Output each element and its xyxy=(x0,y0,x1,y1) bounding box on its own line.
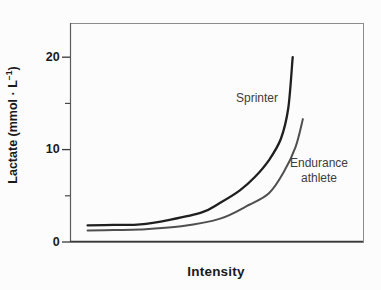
curve-sprinter xyxy=(88,57,293,225)
lactate-intensity-figure: 20 10 0 Lactate (mmol · L−1) Intensity S… xyxy=(0,0,381,290)
y-axis-label-superscript: −1 xyxy=(4,70,14,80)
y-axis-label-text: Lactate (mmol · L xyxy=(6,80,20,184)
annotation-sprinter: Sprinter xyxy=(207,91,307,105)
plot-frame xyxy=(71,24,364,243)
y-axis-label: Lactate (mmol · L−1) xyxy=(4,40,22,210)
x-axis-label: Intensity xyxy=(116,264,316,279)
y-tick-label-10: 10 xyxy=(24,141,60,157)
y-tick-label-20: 20 xyxy=(24,49,60,65)
y-tick-label-0: 0 xyxy=(24,234,60,250)
y-axis-label-close-paren: ) xyxy=(6,66,20,70)
annotation-endurance-athlete: Endurance athlete xyxy=(269,156,369,186)
